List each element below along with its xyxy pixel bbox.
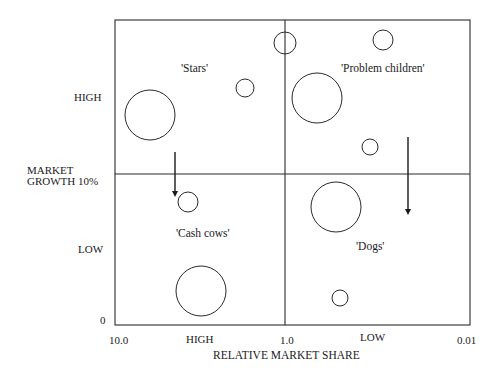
business-unit-circle (362, 139, 378, 155)
quadrant-label-problem-children: 'Problem children' (341, 62, 425, 74)
down-arrow-icon (405, 137, 411, 215)
y-axis-zero: 0 (100, 314, 106, 326)
x-axis-high: HIGH (186, 333, 214, 345)
x-axis-low: LOW (360, 331, 385, 343)
business-unit-circle (292, 73, 342, 123)
quadrant-label-cash-cows: 'Cash cows' (176, 227, 230, 239)
business-unit-circle (176, 266, 226, 316)
business-unit-circle (373, 30, 393, 50)
business-unit-circle (332, 290, 348, 306)
y-axis-high: HIGH (74, 91, 102, 103)
business-unit-circle (311, 182, 361, 232)
quadrant-label-dogs: 'Dogs' (356, 240, 384, 252)
x-axis-1: 1.0 (280, 334, 294, 346)
x-axis-10: 10.0 (109, 334, 128, 346)
x-axis-title: RELATIVE MARKET SHARE (213, 349, 360, 361)
business-unit-circle (125, 90, 175, 140)
quadrant-label-stars: 'Stars' (181, 62, 208, 74)
y-axis-low: LOW (78, 243, 103, 255)
business-unit-circle (236, 79, 254, 97)
x-axis-001: 0.01 (457, 334, 476, 346)
y-axis-title-growth: GROWTH 10% (27, 175, 98, 187)
growth-share-matrix (0, 0, 500, 381)
business-unit-circle (178, 192, 198, 212)
